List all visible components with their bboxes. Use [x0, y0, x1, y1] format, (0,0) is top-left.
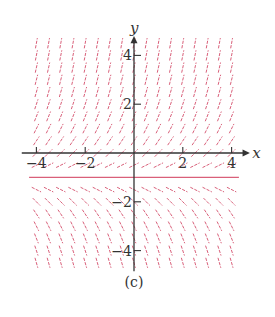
slope-segment [35, 38, 37, 48]
slope-segment [121, 75, 124, 85]
slope-segment [206, 99, 209, 109]
slope-segment [71, 112, 75, 122]
slope-segment [179, 198, 186, 205]
slope-segment [229, 136, 235, 145]
slope-segment [230, 99, 233, 109]
slope-segment [156, 112, 160, 122]
slope-segment [95, 210, 101, 219]
slope-segment [70, 210, 76, 219]
slope-segment [143, 136, 149, 145]
slope-segment [48, 38, 50, 48]
slope-segment [120, 258, 123, 268]
slope-segment [107, 222, 112, 231]
slope-segment [156, 210, 162, 219]
slope-segment [217, 210, 223, 219]
slope-segment [35, 63, 37, 73]
slope-segment [181, 112, 185, 122]
slope-segment [72, 87, 75, 97]
slope-segment [192, 210, 198, 219]
slope-segment [34, 234, 38, 244]
slope-segment [193, 112, 197, 122]
slope-segment [119, 124, 124, 133]
slope-segment [34, 124, 39, 133]
slope-segment [47, 258, 50, 268]
slope-segment [60, 75, 63, 85]
slope-segment [33, 198, 40, 205]
slope-segment [60, 50, 62, 60]
y-tick-label: −4 [111, 243, 132, 259]
slope-segment [216, 198, 223, 205]
slope-segment [47, 112, 51, 122]
slope-segment [95, 222, 100, 231]
slope-segment [44, 187, 53, 192]
slope-segment [168, 124, 173, 133]
slope-segment [205, 112, 209, 122]
slope-segment [205, 222, 210, 231]
slope-segment [168, 136, 174, 145]
slope-segment [58, 136, 64, 145]
slope-segment [47, 63, 49, 73]
slope-segment [46, 210, 52, 219]
slope-segment [34, 210, 40, 219]
slope-segment [230, 258, 233, 268]
slope-segment [144, 124, 149, 133]
slope-segment [46, 124, 51, 133]
slope-segment [96, 63, 98, 73]
slope-segment [157, 75, 160, 85]
slope-segment [168, 210, 174, 219]
slope-segment [94, 198, 101, 205]
slope-segment [108, 112, 112, 122]
slope-segment [228, 198, 235, 205]
slope-segment [47, 234, 51, 244]
slope-segment [157, 63, 159, 73]
slope-segment [32, 187, 41, 192]
slope-segment [108, 75, 111, 85]
slope-segment [230, 75, 233, 85]
slope-segment [84, 87, 87, 97]
slope-segment [194, 50, 196, 60]
slope-segment [217, 112, 221, 122]
slope-segment [181, 246, 184, 256]
slope-segment [157, 38, 159, 48]
slope-segment [142, 187, 151, 192]
slope-segment [194, 63, 196, 73]
slope-segment [193, 99, 196, 109]
slope-segment [96, 87, 99, 97]
slope-segment [204, 136, 210, 145]
slope-segment [217, 124, 222, 133]
slope-segment [190, 187, 199, 192]
slope-segment [170, 50, 172, 60]
slope-segment [218, 99, 221, 109]
slope-segment [47, 75, 50, 85]
slope-segment [108, 63, 110, 73]
slope-segment [84, 75, 87, 85]
slope-segment [218, 50, 220, 60]
slope-segment [217, 136, 223, 145]
slope-segment [215, 163, 224, 168]
x-tick-label: 4 [227, 155, 236, 171]
slope-segment [230, 234, 234, 244]
slope-segment [83, 112, 87, 122]
slope-segment [205, 124, 210, 133]
slope-segment [203, 187, 212, 192]
slope-segment [95, 112, 99, 122]
slope-segment [34, 136, 40, 145]
slope-segment [227, 187, 236, 192]
slope-segment [35, 99, 38, 109]
slope-segment [145, 99, 148, 109]
slope-segment [71, 234, 75, 244]
slope-segment [108, 258, 111, 268]
slope-segment [83, 222, 88, 231]
slope-segment [218, 258, 221, 268]
slope-segment [105, 163, 114, 168]
slope-segment [169, 258, 172, 268]
slope-segment [204, 210, 210, 219]
slope-segment [145, 246, 148, 256]
slope-segment [83, 124, 88, 133]
slope-segment [108, 99, 111, 109]
slope-segment [218, 75, 221, 85]
slope-segment [71, 124, 76, 133]
slope-segment [107, 136, 113, 145]
slope-segment [178, 187, 187, 192]
slope-segment [47, 246, 50, 256]
